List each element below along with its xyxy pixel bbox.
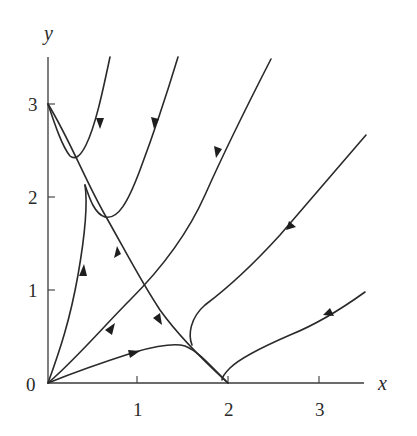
x-tick-label-2: 2 bbox=[224, 399, 234, 420]
phase-portrait: 1 2 3 1 2 3 0 x y bbox=[0, 0, 417, 436]
arrow-icon bbox=[96, 118, 104, 129]
arrow-icon bbox=[153, 313, 162, 325]
x-tick-label-3: 3 bbox=[315, 399, 325, 420]
origin-label: 0 bbox=[26, 374, 36, 395]
trajectory-5 bbox=[222, 292, 365, 380]
x-axis-label: x bbox=[377, 372, 387, 394]
trajectory-4 bbox=[190, 135, 366, 345]
y-tick-label-1: 1 bbox=[28, 280, 38, 301]
trajectory-1 bbox=[48, 57, 110, 158]
trajectory-8 bbox=[48, 345, 228, 383]
arrow-icon bbox=[128, 350, 140, 358]
x-tick-label-1: 1 bbox=[133, 399, 143, 420]
trajectory-6 bbox=[48, 185, 86, 383]
y-tick-label-3: 3 bbox=[28, 94, 38, 115]
y-axis-label: y bbox=[42, 22, 53, 45]
arrow-icon bbox=[323, 308, 334, 316]
y-tick-label-2: 2 bbox=[28, 187, 38, 208]
arrow-icon bbox=[114, 246, 121, 258]
arrow-icon bbox=[214, 146, 222, 158]
separatrix-trajectory bbox=[48, 104, 228, 383]
trajectory-3 bbox=[48, 59, 271, 383]
trajectory-2 bbox=[85, 57, 178, 217]
